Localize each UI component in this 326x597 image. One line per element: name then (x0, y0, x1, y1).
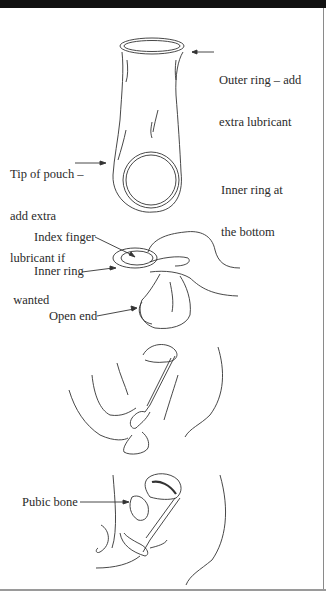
inner-ring (123, 152, 179, 208)
index-finger-label: Index finger (34, 230, 95, 244)
pouch-illustration (113, 38, 184, 212)
tip-label-line1: Tip of pouch – (10, 167, 84, 181)
tip-label-line3: lubricant if (10, 251, 84, 265)
open-end-label: Open end (49, 309, 97, 323)
pubic-bone (130, 496, 148, 520)
pouch-open-end (140, 274, 190, 328)
outer-ring-label: Outer ring – add extra lubricant (219, 45, 301, 143)
arrow-inner-ring (82, 268, 113, 272)
in-place-illustration (96, 474, 226, 585)
arrow-open-end (97, 309, 134, 316)
outer-ring-in-place (120, 533, 148, 556)
pubic-bone-label: Pubic bone (22, 495, 78, 509)
pouch-outline (113, 52, 183, 212)
inner-ring-bottom-line2: the bottom (221, 225, 283, 239)
arrow-index-finger (95, 237, 132, 255)
inner-ring-inner-edge (126, 155, 176, 205)
tip-label-line2: add extra (10, 209, 84, 223)
outer-ring-inner-edge (124, 41, 180, 52)
outer-ring-label-line1: Outer ring – add (219, 73, 301, 87)
inner-ring-bottom-label: Inner ring at the bottom (221, 155, 283, 253)
inner-ring-bottom-line1: Inner ring at (221, 183, 283, 197)
outer-ring-label-line2: extra lubricant (219, 115, 301, 129)
tip-label-line4: wanted (10, 293, 84, 307)
outer-ring-visible (124, 432, 149, 454)
inner-ring-label: Inner ring (34, 264, 84, 278)
insertion-illustration (69, 345, 223, 455)
